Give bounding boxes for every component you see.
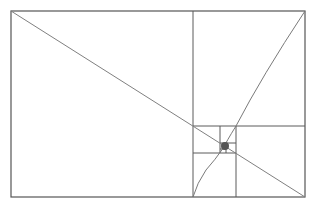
square-divisions — [193, 11, 305, 197]
golden-spiral-figure — [0, 0, 313, 204]
spiral-center-dot — [221, 142, 229, 150]
spiral-curve — [193, 11, 305, 197]
diagonal-line — [11, 11, 305, 197]
golden-ratio-diagram — [0, 0, 313, 204]
